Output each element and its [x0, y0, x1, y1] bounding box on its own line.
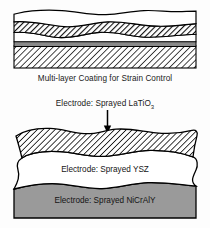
top-diagram-group [14, 10, 196, 68]
figure-canvas [0, 0, 210, 228]
annotation-label-latio3-text: Electrode: Sprayed LaTiO [56, 99, 151, 108]
substrate-hatch-layer [14, 46, 196, 68]
layer-label-ysz: Electrode: Sprayed YSZ [0, 165, 210, 174]
caption-multi-layer-coating: Multi-layer Coating for Strain Control [0, 74, 210, 83]
layer-label-nicraly: Electrode: Sprayed NiCrAlY [0, 196, 210, 205]
annotation-label-latio3-subscript: 3 [151, 104, 154, 110]
figure-page: Multi-layer Coating for Strain Control E… [0, 0, 210, 228]
annotation-label-latio3: Electrode: Sprayed LaTiO3 [0, 99, 210, 110]
